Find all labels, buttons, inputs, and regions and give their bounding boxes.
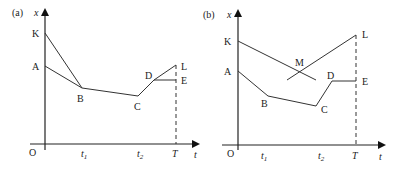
panel-b-x-axis-label: t [379,151,382,162]
panel-a-point-B: B [77,93,84,104]
panel-b-tag: (b) [203,9,215,21]
panel-a-point-L: L [181,61,187,72]
panel-a-tag: (a) [12,7,23,19]
panel-b-tick-T: T [352,150,359,161]
panel-b-line-K [238,41,316,80]
panel-b-point-L: L [362,29,368,40]
panel-a-line-KB [45,33,82,88]
panel-a-tick-t1: t1 [81,148,87,161]
panel-b: (b) x t O t1 t2 T K A B C D L E M [203,9,384,163]
panel-a-point-D: D [145,70,152,81]
panel-a-x-axis-label: t [194,149,197,160]
panel-b-point-K: K [224,36,232,47]
panel-b-line-ABCDE [238,71,356,106]
panel-b-point-B: B [261,98,268,109]
panel-a-point-A: A [32,61,40,72]
panel-a-tick-T: T [172,148,179,159]
diagram-canvas: (a) x t O t1 t2 T K A B C D L E (b) x t … [0,0,396,171]
panel-b-origin-label: O [227,148,234,159]
panel-b-point-A: A [224,66,232,77]
panel-b-point-D: D [327,70,334,81]
panel-b-point-M: M [295,57,304,68]
panel-a: (a) x t O t1 t2 T K A B C D L E [12,7,198,161]
panel-b-point-C: C [321,104,328,115]
panel-a-point-E: E [181,75,187,86]
panel-a-point-C: C [134,101,141,112]
panel-a-point-K: K [32,28,40,39]
panel-b-tick-t2: t2 [318,150,325,163]
panel-a-y-axis-label: x [33,7,39,18]
panel-b-point-E: E [362,76,368,87]
panel-b-y-axis-label: x [226,9,232,20]
panel-b-tick-t1: t1 [261,150,267,163]
panel-a-origin-label: O [29,147,36,158]
panel-a-tick-t2: t2 [137,148,144,161]
